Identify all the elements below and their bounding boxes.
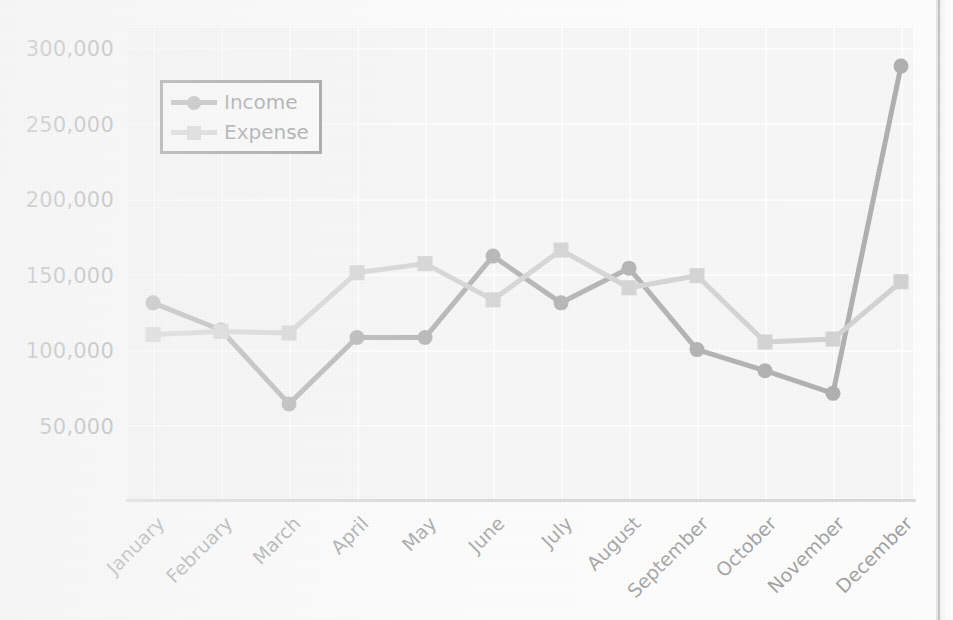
- gridline-vertical: [425, 28, 427, 500]
- y-tick-label: 50,000: [39, 415, 114, 439]
- gridline-vertical: [833, 28, 835, 500]
- gridline-horizontal: [128, 199, 913, 201]
- legend-swatch-income: [171, 93, 217, 111]
- gridline-vertical: [697, 28, 699, 500]
- x-tick-label: February: [161, 512, 236, 587]
- gridline-vertical: [629, 28, 631, 500]
- legend-item-expense: Expense: [171, 117, 309, 147]
- x-tick-label: March: [248, 512, 305, 569]
- chart-legend: Income Expense: [160, 80, 322, 154]
- gridline-horizontal: [128, 350, 913, 352]
- legend-swatch-expense: [171, 123, 217, 141]
- circle-marker-icon: [187, 96, 201, 110]
- gridline-vertical: [901, 28, 903, 500]
- gridline-horizontal: [128, 425, 913, 427]
- y-axis-tick-labels: 300,000 250,000 200,000 150,000 100,000 …: [0, 0, 114, 620]
- legend-label-expense: Expense: [224, 122, 309, 142]
- y-tick-label: 150,000: [26, 264, 114, 288]
- x-tick-label: April: [326, 512, 372, 558]
- x-tick-label: June: [464, 512, 509, 557]
- y-tick-label: 100,000: [26, 339, 114, 363]
- chart-page: 300,000 250,000 200,000 150,000 100,000 …: [0, 0, 953, 620]
- y-tick-label: 250,000: [26, 113, 114, 137]
- legend-item-income: Income: [171, 87, 298, 117]
- x-tick-label: August: [582, 512, 645, 575]
- x-tick-label: July: [537, 512, 577, 552]
- y-tick-label: 300,000: [26, 37, 114, 61]
- gridline-vertical: [561, 28, 563, 500]
- gridline-vertical: [765, 28, 767, 500]
- square-marker-icon: [187, 126, 201, 140]
- gridline-horizontal: [128, 48, 913, 50]
- gridline-vertical: [493, 28, 495, 500]
- x-axis-line: [126, 499, 916, 502]
- x-tick-label: May: [397, 512, 440, 555]
- y-tick-label: 200,000: [26, 188, 114, 212]
- page-edge-line: [938, 0, 940, 620]
- legend-label-income: Income: [224, 92, 298, 112]
- gridline-horizontal: [128, 274, 913, 276]
- gridline-vertical: [357, 28, 359, 500]
- gridline-vertical: [153, 28, 155, 500]
- x-tick-label: October: [711, 512, 780, 581]
- page-edge-shadow: [936, 0, 953, 620]
